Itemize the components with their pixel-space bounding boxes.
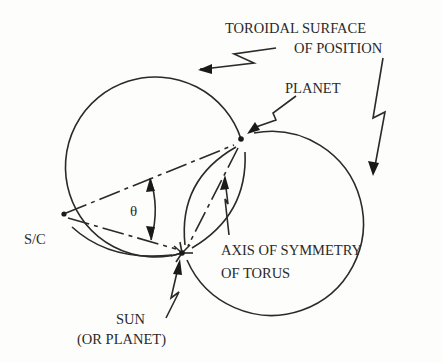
axis-label-line2: OF TORUS	[221, 265, 290, 281]
toroidal-label-line1: TOROIDAL SURFACE	[225, 20, 366, 36]
planet-point	[238, 136, 244, 142]
sun-point	[179, 250, 185, 256]
theta-label: θ	[130, 203, 137, 219]
torus-diagram: θ TOROIDAL SURFACE OF POSITION PLANET S/…	[0, 0, 442, 363]
toroidal-leader-right	[373, 58, 385, 166]
sc-label: S/C	[24, 231, 46, 247]
lens-arc-right	[192, 152, 245, 248]
toroidal-label-line2: OF POSITION	[294, 40, 383, 56]
sc-sun-line	[68, 218, 176, 249]
axis-label-line1: AXIS OF SYMMETRY	[221, 242, 363, 258]
sc-point	[61, 211, 66, 216]
sc-lower-arc	[72, 227, 172, 256]
planet-leader	[252, 96, 296, 130]
axis-arrow-icon	[220, 175, 229, 190]
sun-label-line2: (OR PLANET)	[77, 331, 166, 348]
torus-right-circle	[187, 131, 363, 315]
sun-label-line1: SUN	[116, 311, 146, 327]
sun-leader	[166, 268, 179, 318]
toroidal-arrow-right-icon	[368, 161, 379, 176]
sun-arrow-icon	[173, 259, 182, 275]
theta-arrow-down-icon	[146, 226, 155, 240]
planet-label: PLANET	[285, 80, 341, 96]
